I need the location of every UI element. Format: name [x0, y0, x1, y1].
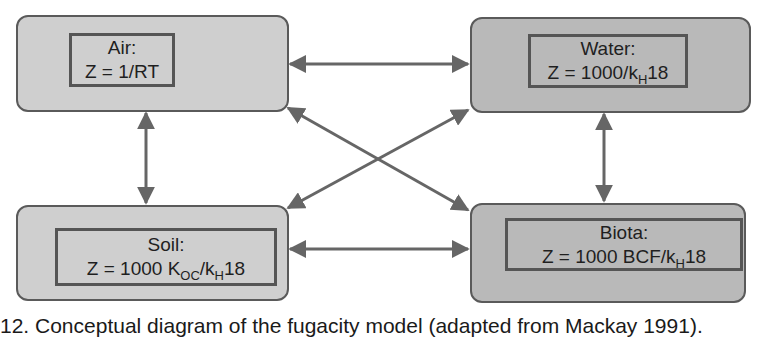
z-formula-water: Z = 1000/kH18 — [548, 61, 669, 85]
z-formula-air: Z = 1/RT — [85, 60, 159, 84]
label-box-soil: Soil: Z = 1000 KOC/kH18 — [55, 228, 277, 286]
arrow-air-biota — [288, 108, 468, 210]
compartment-name-air: Air: — [108, 36, 137, 60]
compartment-name-water: Water: — [580, 37, 635, 61]
z-formula-biota: Z = 1000 BCF/kH18 — [542, 245, 706, 269]
arrow-water-soil — [288, 110, 468, 208]
label-box-water: Water: Z = 1000/kH18 — [528, 34, 688, 88]
z-formula-soil: Z = 1000 KOC/kH18 — [87, 257, 245, 281]
figure-caption: 12. Conceptual diagram of the fugacity m… — [0, 314, 761, 338]
label-box-biota: Biota: Z = 1000 BCF/kH18 — [505, 218, 743, 271]
compartment-name-soil: Soil: — [148, 233, 185, 257]
compartment-name-biota: Biota: — [600, 221, 649, 245]
label-box-air: Air: Z = 1/RT — [69, 33, 175, 87]
